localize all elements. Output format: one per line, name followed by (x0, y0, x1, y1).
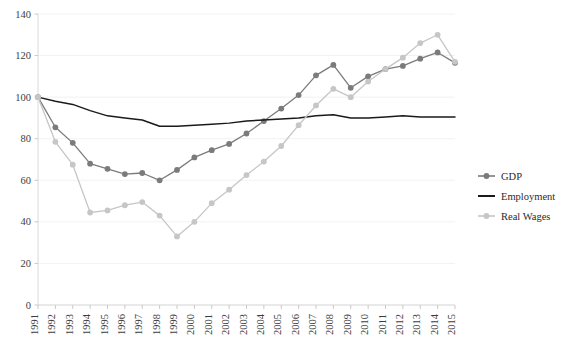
series-employment (38, 97, 455, 126)
data-point-marker (278, 106, 284, 112)
x-axis-tick-labels: 1991199219931994199519961997199819992000… (29, 305, 457, 335)
legend-item-gdp[interactable]: GDP (478, 171, 522, 182)
axes (38, 14, 455, 305)
x-tick-label: 2011 (377, 314, 388, 335)
x-tick-label: 2015 (446, 314, 457, 335)
data-point-marker (330, 62, 336, 68)
data-point-marker (35, 94, 41, 100)
y-tick-label: 20 (21, 258, 32, 269)
y-axis-tick-labels: 020406080100120140 (15, 9, 38, 311)
data-point-marker (70, 140, 76, 146)
series-line (38, 97, 455, 126)
legend-swatch-marker (484, 173, 490, 179)
x-tick-label: 2013 (411, 314, 422, 335)
data-point-marker (157, 213, 163, 219)
x-tick-label: 2010 (359, 314, 370, 335)
data-point-marker (365, 79, 371, 85)
line-chart: 020406080100120140 199119921993199419951… (0, 0, 568, 359)
x-tick-label: 2007 (307, 314, 318, 335)
x-tick-label: 1998 (151, 314, 162, 335)
data-point-marker (174, 167, 180, 173)
gridlines (38, 14, 455, 305)
x-tick-label: 2014 (429, 313, 440, 335)
legend-item-employment[interactable]: Employment (478, 191, 555, 202)
data-point-marker (191, 219, 197, 225)
x-tick-label: 1996 (116, 314, 127, 335)
x-tick-label: 1997 (133, 314, 144, 335)
data-point-marker (87, 210, 93, 216)
y-tick-label: 40 (21, 216, 32, 227)
data-point-marker (105, 166, 111, 172)
x-tick-label: 2006 (290, 314, 301, 335)
x-tick-label: 2000 (185, 314, 196, 335)
data-point-marker (174, 234, 180, 240)
data-point-marker (278, 143, 284, 149)
x-tick-label: 2005 (272, 314, 283, 335)
data-point-marker (209, 147, 215, 153)
data-point-marker (383, 66, 389, 72)
data-point-marker (296, 122, 302, 128)
x-tick-label: 1995 (99, 314, 110, 335)
data-point-marker (122, 202, 128, 208)
legend-swatch-marker (484, 213, 490, 219)
x-tick-label: 1992 (46, 314, 57, 335)
data-point-marker (157, 177, 163, 183)
data-point-marker (313, 72, 319, 78)
x-tick-label: 2003 (238, 314, 249, 335)
data-point-marker (244, 172, 250, 178)
data-point-marker (209, 200, 215, 206)
y-tick-label: 120 (15, 50, 31, 61)
data-point-marker (226, 187, 232, 193)
x-tick-label: 1991 (29, 314, 40, 335)
x-tick-label: 2002 (220, 314, 231, 335)
legend-label: Employment (501, 191, 555, 202)
data-point-marker (87, 161, 93, 167)
data-point-marker (191, 155, 197, 161)
data-point-marker (261, 159, 267, 165)
legend-label: Real Wages (501, 211, 550, 222)
data-point-marker (122, 171, 128, 177)
data-point-marker (139, 170, 145, 176)
data-point-marker (296, 92, 302, 98)
y-tick-label: 60 (21, 175, 32, 186)
data-point-marker (313, 103, 319, 109)
data-point-marker (226, 141, 232, 147)
data-point-marker (52, 124, 58, 130)
data-point-marker (244, 131, 250, 137)
data-point-marker (417, 40, 423, 46)
data-point-marker (105, 208, 111, 214)
data-point-marker (417, 56, 423, 62)
x-tick-label: 1994 (81, 313, 92, 335)
chart-canvas: 020406080100120140 199119921993199419951… (0, 0, 568, 359)
y-tick-label: 140 (15, 9, 31, 20)
data-point-marker (139, 199, 145, 205)
data-point-marker (435, 32, 441, 38)
data-point-marker (365, 73, 371, 79)
legend-item-real-wages[interactable]: Real Wages (478, 211, 550, 222)
data-point-marker (452, 59, 458, 65)
data-point-marker (435, 50, 441, 56)
x-tick-label: 2001 (203, 314, 214, 335)
data-point-marker (348, 94, 354, 100)
data-point-marker (348, 85, 354, 91)
legend-label: GDP (501, 171, 522, 182)
data-point-marker (400, 55, 406, 61)
x-tick-label: 1993 (64, 314, 75, 335)
data-point-marker (70, 162, 76, 168)
x-tick-label: 2008 (324, 314, 335, 335)
data-series (35, 32, 458, 239)
y-tick-label: 0 (26, 300, 31, 311)
data-point-marker (330, 86, 336, 92)
data-point-marker (261, 118, 267, 124)
x-tick-label: 2009 (342, 314, 353, 335)
x-tick-label: 2004 (255, 313, 266, 335)
y-tick-label: 100 (15, 92, 31, 103)
chart-legend: GDPEmploymentReal Wages (478, 171, 555, 222)
x-tick-label: 2012 (394, 314, 405, 335)
y-tick-label: 80 (21, 133, 32, 144)
data-point-marker (52, 139, 58, 145)
x-tick-label: 1999 (168, 314, 179, 335)
data-point-marker (400, 63, 406, 69)
